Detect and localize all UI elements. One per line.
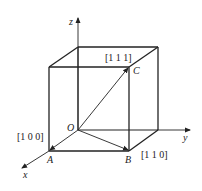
cube-edge (129, 130, 158, 151)
direction-label-110: [1 1 0] (141, 149, 168, 160)
diagram-canvas: z y x O A B C [1 0 0] [1 1 0] [1 1 1] (0, 0, 202, 191)
cube-edge (129, 47, 158, 67)
point-label-C: C (133, 65, 140, 76)
direction-label-100: [1 0 0] (17, 131, 44, 142)
vector-OB (78, 130, 128, 150)
vector-OC (78, 68, 128, 130)
vector-OA (50, 130, 78, 150)
x-axis-label: x (22, 169, 28, 180)
y-axis-label: y (182, 132, 188, 143)
point-label-A: A (46, 154, 54, 165)
cube-edge (49, 47, 78, 67)
x-axis (22, 151, 49, 168)
cube-direction-diagram: z y x O A B C [1 0 0] [1 1 0] [1 1 1] (0, 0, 202, 191)
point-label-O: O (67, 122, 74, 133)
z-axis-label: z (68, 16, 73, 27)
direction-label-111: [1 1 1] (105, 52, 132, 63)
point-label-B: B (125, 154, 131, 165)
